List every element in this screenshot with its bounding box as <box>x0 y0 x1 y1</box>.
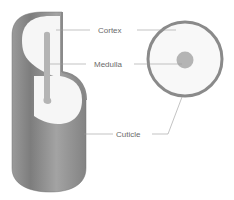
cross-section-medulla <box>177 52 194 69</box>
hair-structure-diagram: Cortex Medulla Cuticle <box>0 0 234 200</box>
cortex-label: Cortex <box>98 26 122 35</box>
cortex-cut-face-lower <box>34 76 82 124</box>
hair-cross-section <box>148 22 222 96</box>
hair-cylinder <box>12 12 86 192</box>
cuticle-leader-right <box>152 97 182 134</box>
medulla-label: Medulla <box>94 60 123 69</box>
cuticle-label: Cuticle <box>116 130 141 139</box>
